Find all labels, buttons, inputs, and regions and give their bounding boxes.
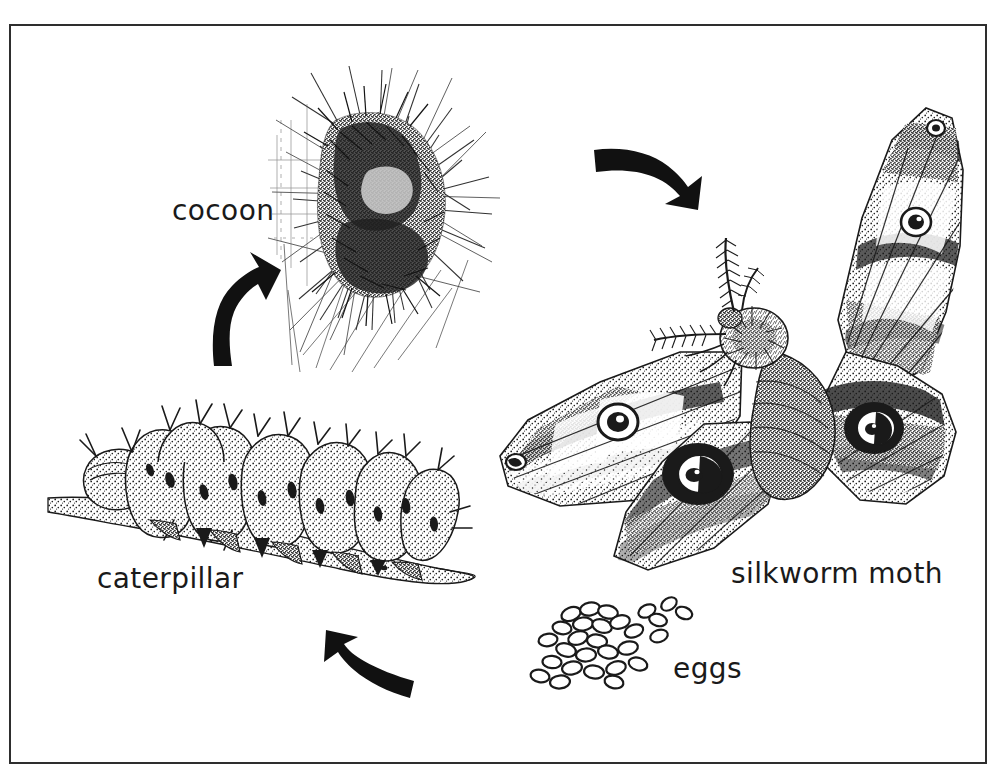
- label-silkworm-moth: silkworm moth: [731, 557, 943, 590]
- moth-apex-mark-upper: [927, 120, 945, 136]
- silkworm-moth-drawing: [498, 108, 968, 570]
- moth-hindwing-upper: [818, 352, 956, 504]
- moth-eyespot-lower-hindwing: [662, 443, 734, 505]
- moth-eyespot-upper-hindwing: [844, 402, 904, 454]
- moth-eyespot-lower-forewing: [598, 404, 638, 440]
- moth-forewing-upper: [838, 108, 968, 392]
- moth-eyespot-upper-forewing: [901, 208, 931, 236]
- eggs-drawing: [530, 594, 694, 690]
- cocoon-drawing: [268, 66, 500, 372]
- label-eggs: eggs: [673, 652, 742, 685]
- label-cocoon: cocoon: [172, 194, 274, 227]
- caterpillar-drawing: [48, 400, 475, 584]
- arrow-caterpillar-to-cocoon: [213, 252, 281, 366]
- label-caterpillar: caterpillar: [97, 562, 243, 595]
- arrow-cocoon-to-moth: [594, 149, 702, 210]
- moth-apex-mark-lower: [506, 454, 526, 470]
- arrow-eggs-to-caterpillar: [324, 630, 414, 698]
